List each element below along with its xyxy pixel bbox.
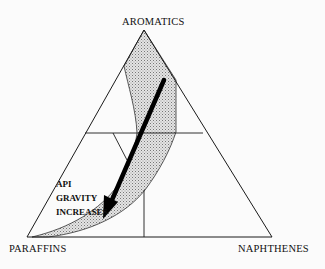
ternary-diagram: AROMATICS PARAFFINS NAPHTHENES API GRAVI…: [0, 0, 325, 269]
ternary-plot: [0, 0, 325, 269]
vertex-label-paraffins: PARAFFINS: [9, 243, 66, 254]
annotation-api-gravity: API GRAVITY INCREASES: [56, 177, 108, 219]
annotation-line-1: API: [56, 177, 108, 191]
vertex-label-aromatics: AROMATICS: [122, 16, 184, 27]
annotation-line-3: INCREASES: [56, 205, 108, 219]
inner-diagonal: [113, 133, 127, 160]
vertex-label-naphthenes: NAPHTHENES: [238, 243, 309, 254]
annotation-line-2: GRAVITY: [56, 191, 108, 205]
